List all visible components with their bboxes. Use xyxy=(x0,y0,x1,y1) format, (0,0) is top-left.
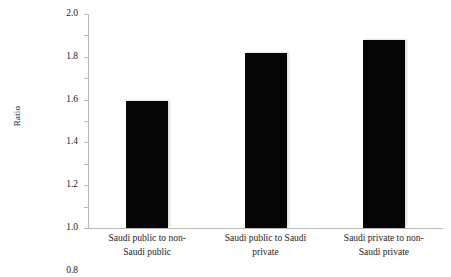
x-axis-tick-labels: Saudi public to non-Saudi publicSaudi pu… xyxy=(88,232,443,276)
x-tick-label: Saudi public to non-Saudi public xyxy=(88,232,206,259)
x-tick-label: Saudi public to Saudiprivate xyxy=(206,232,324,259)
chart-figure: Ratio 00.20.40.60.81.01.21.41.61.82.0 Sa… xyxy=(0,0,451,277)
y-tick-label: 1.6 xyxy=(66,95,78,105)
x-tick-label-line: Saudi public xyxy=(88,246,206,260)
bar-slot xyxy=(363,14,405,228)
bar-slot xyxy=(126,14,168,228)
y-tick-label: 0.8 xyxy=(66,266,78,276)
y-tick-label: 1.8 xyxy=(66,52,78,62)
y-tick-label: 1.4 xyxy=(66,138,78,148)
y-axis-title: Ratio xyxy=(8,0,26,232)
bar xyxy=(363,40,405,228)
bar xyxy=(126,101,168,228)
x-axis-line xyxy=(88,228,443,229)
y-tick-label: 1.0 xyxy=(66,223,78,233)
plot-area: 00.20.40.60.81.01.21.41.61.82.0 xyxy=(88,14,443,228)
bar-slot xyxy=(245,14,287,228)
x-tick-label-line: private xyxy=(206,246,324,260)
bar xyxy=(245,53,287,228)
bar-series xyxy=(88,14,443,228)
y-tick-label: 1.2 xyxy=(66,180,78,190)
x-tick-label-line: Saudi private xyxy=(325,246,443,260)
x-tick-label-line: Saudi public to non- xyxy=(88,232,206,246)
x-tick-label: Saudi private to non-Saudi private xyxy=(325,232,443,259)
x-tick-label-line: Saudi public to Saudi xyxy=(206,232,324,246)
y-tick-mark: 0 xyxy=(84,228,88,229)
x-tick-label-line: Saudi private to non- xyxy=(325,232,443,246)
y-tick-label: 2.0 xyxy=(66,9,78,19)
y-axis-title-text: Ratio xyxy=(12,106,22,127)
